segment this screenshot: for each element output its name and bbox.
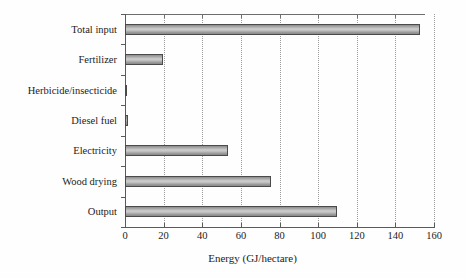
- category-label-total-input: Total input: [71, 24, 117, 35]
- x-axis-title: Energy (GJ/hectare): [208, 252, 297, 264]
- bar-output: [125, 206, 337, 217]
- xtick-label-120: 120: [349, 230, 365, 241]
- category-label-wood-drying: Wood drying: [62, 176, 117, 187]
- xtick-label-20: 20: [158, 230, 169, 241]
- tick-bottom-40: [202, 223, 203, 228]
- category-label-output: Output: [88, 206, 117, 217]
- tick-bottom-80: [280, 223, 281, 228]
- tick-bottom-60: [241, 223, 242, 228]
- category-label-herbicide-insecticide: Herbicide/insecticide: [28, 85, 117, 96]
- x-axis-title-wrapper: Energy (GJ/hectare): [0, 252, 465, 264]
- xtick-label-40: 40: [197, 230, 208, 241]
- tick-top-80: [280, 14, 281, 18]
- tick-top-120: [357, 14, 358, 18]
- bar-electricity: [125, 145, 228, 156]
- bar-wood-drying: [125, 176, 271, 187]
- gridline-100: [318, 14, 319, 227]
- category-label-electricity: Electricity: [73, 145, 117, 156]
- gridline-40: [202, 14, 203, 227]
- gridline-160: [434, 14, 435, 227]
- tick-bottom-100: [318, 223, 319, 228]
- tick-bottom-120: [357, 223, 358, 228]
- tick-top-140: [395, 14, 396, 18]
- xtick-label-80: 80: [274, 230, 285, 241]
- tick-bottom-20: [164, 223, 165, 228]
- bar-diesel-fuel: [125, 115, 128, 126]
- tick-top-20: [164, 14, 165, 18]
- gridline-80: [280, 14, 281, 227]
- axis-top-spine: [125, 14, 425, 15]
- xtick-label-60: 60: [236, 230, 247, 241]
- tick-top-60: [241, 14, 242, 18]
- tick-top-100: [318, 14, 319, 18]
- category-label-diesel-fuel: Diesel fuel: [71, 115, 117, 126]
- tick-left-0: [121, 14, 125, 15]
- gridline-120: [357, 14, 358, 227]
- tick-left-6: [121, 197, 125, 198]
- gridline-60: [241, 14, 242, 227]
- bar-fertilizer: [125, 54, 163, 65]
- plot-area: [125, 14, 434, 227]
- tick-left-7: [121, 227, 125, 228]
- xtick-label-100: 100: [310, 230, 326, 241]
- tick-left-5: [121, 166, 125, 167]
- category-label-fertilizer: Fertilizer: [79, 54, 117, 65]
- bar-chart: Total input Fertilizer Herbicide/insecti…: [0, 0, 465, 278]
- gridline-20: [164, 14, 165, 227]
- bar-total-input: [125, 24, 420, 35]
- tick-bottom-140: [395, 223, 396, 228]
- tick-left-1: [121, 44, 125, 45]
- xtick-label-140: 140: [388, 230, 404, 241]
- gridline-140: [395, 14, 396, 227]
- tick-bottom-160: [434, 223, 435, 228]
- xtick-label-160: 160: [426, 230, 442, 241]
- tick-left-2: [121, 75, 125, 76]
- tick-top-40: [202, 14, 203, 18]
- tick-left-3: [121, 105, 125, 106]
- xtick-label-0: 0: [122, 230, 127, 241]
- tick-bottom-0: [125, 223, 126, 228]
- bar-herbicide-insecticide: [125, 85, 127, 96]
- tick-left-4: [121, 136, 125, 137]
